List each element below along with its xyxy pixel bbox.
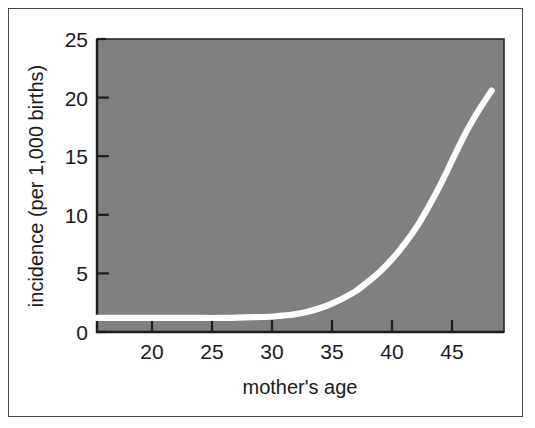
x-axis-title: mother's age [243, 376, 358, 398]
y-tick-label-20: 20 [65, 87, 88, 110]
y-tick-label-15: 15 [65, 145, 88, 168]
x-tick-label-35: 35 [320, 340, 343, 363]
x-tick-label-30: 30 [260, 340, 283, 363]
y-tick-label-0: 0 [76, 321, 88, 344]
y-tick-label-5: 5 [76, 262, 88, 285]
x-tick-label-25: 25 [200, 340, 223, 363]
x-tick-label-20: 20 [140, 340, 163, 363]
x-tick-label-45: 45 [440, 340, 463, 363]
y-tick-label-25: 25 [65, 28, 88, 51]
x-tick-label-40: 40 [380, 340, 403, 363]
chart-canvas: 25 20 15 10 5 0 20 25 30 35 40 45 incide… [0, 0, 535, 428]
y-tick-label-10: 10 [65, 204, 88, 227]
figure-container: 25 20 15 10 5 0 20 25 30 35 40 45 incide… [0, 0, 535, 428]
y-axis-title: incidence (per 1,000 births) [25, 65, 47, 307]
